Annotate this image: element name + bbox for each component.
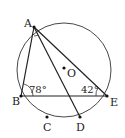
circumcircle <box>17 23 111 117</box>
label-E: E <box>110 96 118 109</box>
point-E <box>105 94 108 97</box>
point-D <box>78 115 81 118</box>
point-C <box>45 115 48 118</box>
angle-arc-A <box>34 35 38 36</box>
angle-label-B: 78° <box>29 84 47 95</box>
circle-triangle-figure: A B E C D O 78° 42° <box>0 0 125 138</box>
label-O: O <box>67 67 76 80</box>
geometry-diagram: A B E C D O 78° 42° <box>0 0 125 138</box>
label-D: D <box>76 121 85 134</box>
point-O <box>62 66 65 69</box>
point-A <box>32 25 35 28</box>
label-C: C <box>43 121 51 134</box>
label-B: B <box>12 95 20 108</box>
label-A: A <box>23 17 33 30</box>
angle-label-E: 42° <box>81 84 99 95</box>
